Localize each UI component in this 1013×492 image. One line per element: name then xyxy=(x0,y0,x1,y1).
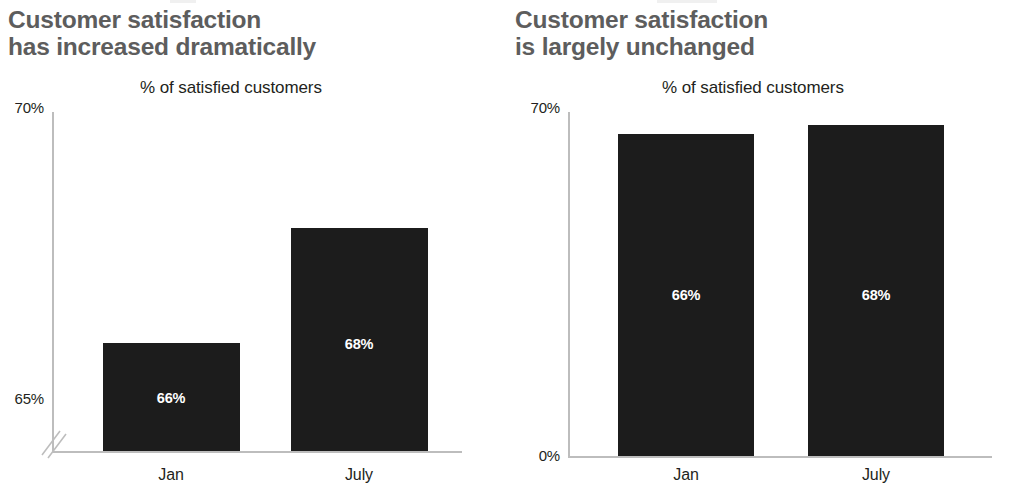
y-tick-label-0: 0% xyxy=(507,447,560,464)
y-tick-label-70: 70% xyxy=(507,99,560,116)
x-axis-line-right xyxy=(568,456,992,458)
x-axis-line-left xyxy=(52,451,462,453)
chart-panel-left: Customer satisfaction has increased dram… xyxy=(0,0,506,492)
x-tick-label-jan: Jan xyxy=(641,466,731,484)
chart-panel-right: Customer satisfaction is largely unchang… xyxy=(507,0,1013,492)
bar-value-jan: 66% xyxy=(126,390,216,406)
y-axis-line-left xyxy=(52,112,54,451)
bar-value-jan: 66% xyxy=(641,287,731,303)
bar-value-july: 68% xyxy=(314,336,404,352)
y-axis-line-right xyxy=(568,112,570,456)
x-tick-label-july: July xyxy=(314,466,404,484)
x-tick-label-jan: Jan xyxy=(126,466,216,484)
y-tick-label-70: 70% xyxy=(0,99,44,116)
plot-area-left: 70% 65% 66% 68% Jan July xyxy=(0,0,506,492)
bar-value-july: 68% xyxy=(831,287,921,303)
axis-break-icon xyxy=(36,425,70,461)
x-tick-label-july: July xyxy=(831,466,921,484)
plot-area-right: 70% 0% 66% 68% Jan July xyxy=(507,0,1013,492)
y-tick-label-65: 65% xyxy=(0,390,44,407)
